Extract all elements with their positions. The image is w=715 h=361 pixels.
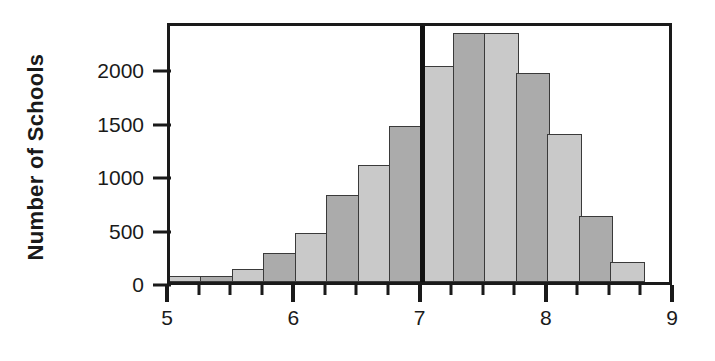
plot-area bbox=[170, 26, 669, 282]
x-axis-tick-label: 8 bbox=[540, 306, 552, 330]
x-axis-tick-mark bbox=[291, 285, 295, 302]
x-axis-tick-label: 7 bbox=[414, 306, 426, 330]
x-axis-tick-label: 9 bbox=[666, 306, 678, 330]
y-axis-title: Number of Schools bbox=[23, 27, 49, 287]
histogram-bar bbox=[295, 233, 330, 282]
x-axis-tick-label: 6 bbox=[287, 306, 299, 330]
x-axis-tick-label: 5 bbox=[161, 306, 173, 330]
histogram-bar bbox=[358, 165, 393, 282]
x-axis-minor-tick-mark bbox=[513, 285, 516, 295]
x-axis-minor-tick-mark bbox=[576, 285, 579, 295]
plot-frame bbox=[167, 23, 672, 285]
y-axis-tick-label: 2000 bbox=[58, 59, 144, 83]
y-axis-tick-mark bbox=[153, 70, 171, 73]
x-axis-minor-tick-mark bbox=[355, 285, 358, 295]
y-axis-tick-mark bbox=[153, 123, 171, 126]
histogram-bar bbox=[610, 262, 645, 282]
x-axis-minor-tick-mark bbox=[450, 285, 453, 295]
histogram-bar bbox=[484, 33, 519, 282]
x-axis-minor-tick-mark bbox=[607, 285, 610, 295]
x-axis-tick-mark bbox=[165, 285, 169, 302]
x-axis-minor-tick-mark bbox=[481, 285, 484, 295]
reference-line-annotation bbox=[420, 26, 425, 282]
histogram-figure: Number of Schools 0500100015002000 56789 bbox=[0, 0, 715, 361]
histogram-bar bbox=[579, 216, 614, 282]
x-axis-minor-tick-mark bbox=[639, 285, 642, 295]
histogram-bar bbox=[263, 253, 298, 282]
x-axis-minor-tick-mark bbox=[386, 285, 389, 295]
histogram-bar bbox=[232, 269, 267, 282]
y-axis-tick-mark bbox=[153, 177, 171, 180]
x-axis-tick-mark bbox=[670, 285, 674, 302]
histogram-bar bbox=[516, 73, 551, 282]
x-axis-minor-tick-mark bbox=[260, 285, 263, 295]
histogram-bar bbox=[326, 195, 361, 282]
histogram-bar bbox=[547, 134, 582, 282]
x-axis-tick-mark bbox=[544, 285, 548, 302]
y-axis-tick-labels: 0500100015002000 bbox=[58, 0, 144, 361]
histogram-bar bbox=[170, 276, 203, 282]
y-axis-tick-label: 500 bbox=[58, 220, 144, 244]
histogram-bar bbox=[453, 33, 488, 282]
histogram-bar bbox=[421, 66, 456, 282]
y-axis-tick-label: 0 bbox=[58, 273, 144, 297]
y-axis-tick-label: 1000 bbox=[58, 166, 144, 190]
histogram-bar bbox=[389, 126, 424, 282]
x-axis-minor-tick-mark bbox=[323, 285, 326, 295]
histogram-bar bbox=[200, 276, 235, 282]
x-axis-tick-mark bbox=[418, 285, 422, 302]
y-axis-tick-mark bbox=[153, 230, 171, 233]
x-axis-minor-tick-mark bbox=[197, 285, 200, 295]
y-axis-tick-label: 1500 bbox=[58, 113, 144, 137]
x-axis-minor-tick-mark bbox=[229, 285, 232, 295]
